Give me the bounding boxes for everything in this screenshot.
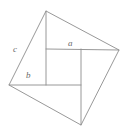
geometry-figure: a b c: [0, 0, 128, 134]
segment-label-c: c: [13, 45, 17, 54]
outer-square-outline: [9, 11, 119, 125]
inner-line-horizontal-upper: [46, 49, 119, 50]
geometry-canvas: [0, 0, 128, 134]
segment-label-a: a: [68, 39, 73, 48]
segment-label-b: b: [26, 71, 31, 80]
